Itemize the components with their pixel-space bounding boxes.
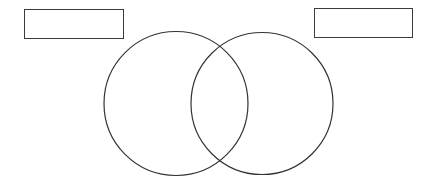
right-circle — [191, 33, 333, 175]
left-circle — [104, 32, 248, 176]
venn-diagram — [0, 0, 433, 187]
